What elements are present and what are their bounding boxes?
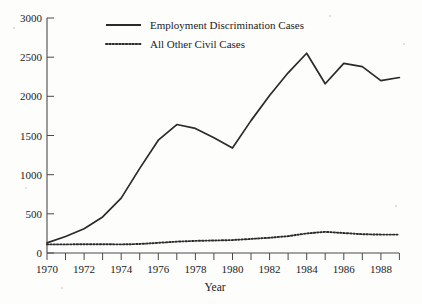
- y-tick-label: 1500: [20, 130, 43, 142]
- x-tick-label: 1984: [296, 263, 319, 275]
- x-tick-label: 1988: [370, 263, 393, 275]
- x-tick-label: 1986: [333, 263, 356, 275]
- chart-figure: 0 500 1000 1500 2000 2500 3000: [0, 0, 422, 304]
- x-tick-label: 1980: [222, 263, 245, 275]
- x-tick-label: 1972: [73, 263, 95, 275]
- y-axis-ticks: [47, 18, 54, 253]
- x-tick-label: 1982: [259, 263, 281, 275]
- legend: Employment Discrimination Cases All Othe…: [106, 19, 304, 50]
- y-tick-label: 500: [26, 208, 43, 220]
- series-employment-discrimination-line: [47, 53, 399, 243]
- x-tick-label: 1974: [110, 263, 133, 275]
- x-axis: 1970 1972 1974 1976 1978 1980 1982 1984 …: [36, 253, 399, 293]
- x-axis-tick-labels: 1970 1972 1974 1976 1978 1980 1982 1984 …: [36, 263, 392, 275]
- x-tick-label: 1970: [36, 263, 59, 275]
- y-tick-label: 3000: [20, 12, 43, 24]
- x-axis-title: Year: [204, 281, 225, 293]
- plot-series: [47, 53, 399, 244]
- x-tick-label: 1976: [147, 263, 170, 275]
- y-axis: 0 500 1000 1500 2000 2500 3000: [20, 12, 54, 259]
- legend-label-all-other-civil: All Other Civil Cases: [150, 38, 245, 50]
- y-tick-label: 2000: [20, 90, 43, 102]
- paper-specks: [13, 15, 405, 293]
- line-chart: 0 500 1000 1500 2000 2500 3000: [0, 0, 422, 304]
- y-axis-tick-labels: 0 500 1000 1500 2000 2500 3000: [20, 12, 43, 259]
- y-tick-label: 2500: [20, 51, 43, 63]
- x-tick-label: 1978: [184, 263, 207, 275]
- y-tick-label: 1000: [20, 169, 43, 181]
- legend-label-employment-discrimination: Employment Discrimination Cases: [150, 19, 304, 31]
- y-tick-label: 0: [37, 247, 43, 259]
- series-all-other-civil-line: [47, 232, 399, 245]
- x-axis-ticks: [47, 253, 399, 260]
